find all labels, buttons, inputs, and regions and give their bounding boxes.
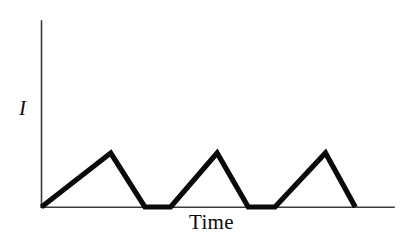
chart-background [0,0,411,241]
x-axis-label: Time [189,212,234,233]
chart-figure: I Time [0,0,411,241]
y-axis-label: I [19,98,26,119]
waveform-plot [0,0,411,241]
